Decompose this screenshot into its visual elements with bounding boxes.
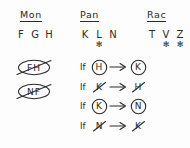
rule-consequent-token: K xyxy=(130,118,147,135)
letter-glyph: N xyxy=(96,122,103,131)
if-label: If xyxy=(80,62,86,72)
eliminated-token: FH xyxy=(16,59,52,76)
letter-glyph: K xyxy=(82,29,89,40)
letter-glyph: N xyxy=(109,29,116,40)
letter-glyph: G xyxy=(31,29,39,40)
column-header-pan-label: Pan xyxy=(80,9,99,22)
if-label: If xyxy=(80,121,86,131)
letter-glyph: K xyxy=(135,122,141,131)
letter-glyph: H xyxy=(96,63,103,72)
letter-cell: L ✻ xyxy=(92,29,106,48)
column-header-mon-label: Mon xyxy=(20,9,42,22)
eliminated-token-label: FH xyxy=(16,59,52,76)
rule-antecedent-token: K xyxy=(91,79,108,96)
if-label: If xyxy=(80,82,86,92)
letter-cell: K ✻ xyxy=(78,29,92,48)
letter-cell: V ✻ xyxy=(159,29,173,48)
letter-glyph: V xyxy=(163,29,170,40)
column-header-pan: Pan xyxy=(80,9,99,22)
letter-glyph: K xyxy=(96,102,102,111)
letter-glyph: L xyxy=(96,29,102,40)
letter-cell: G ✻ xyxy=(28,29,42,48)
letter-glyph: H xyxy=(135,83,142,92)
arrow-icon xyxy=(109,120,129,132)
letter-glyph: F xyxy=(18,29,24,40)
rule-row: If N K xyxy=(80,117,147,135)
letter-glyph: K xyxy=(135,63,141,72)
letter-cell: N ✻ xyxy=(106,29,120,48)
scratchwork-canvas: Mon Pan Rac F ✻ G ✻ H ✻ K ✻ L ✻ N ✻ xyxy=(0,0,190,148)
column-header-rac-label: Rac xyxy=(147,9,166,22)
eliminated-token-label: NF xyxy=(16,83,52,100)
star-icon: ✻ xyxy=(159,42,173,48)
rule-consequent-token: K xyxy=(130,59,147,76)
arrow-icon xyxy=(109,100,129,112)
rule-antecedent-token: K xyxy=(91,98,108,115)
rule-antecedent-token: N xyxy=(91,118,108,135)
eliminated-token: NF xyxy=(16,83,52,100)
column-header-rac: Rac xyxy=(147,9,166,22)
rule-consequent-token: H xyxy=(130,79,147,96)
star-icon: ✻ xyxy=(173,42,187,48)
letter-row-mon: F ✻ G ✻ H ✻ xyxy=(14,29,56,48)
letter-row-rac: T ✻ V ✻ Z ✻ xyxy=(145,29,187,48)
rule-consequent-token: N xyxy=(130,98,147,115)
rule-row: If K N xyxy=(80,97,147,115)
rule-antecedent-token: H xyxy=(91,59,108,76)
letter-cell: T ✻ xyxy=(145,29,159,48)
letter-cell: F ✻ xyxy=(14,29,28,48)
arrow-icon xyxy=(109,61,129,73)
letter-glyph: H xyxy=(45,29,53,40)
letter-cell: H ✻ xyxy=(42,29,56,48)
star-icon: ✻ xyxy=(92,42,106,48)
letter-glyph: T xyxy=(149,29,155,40)
letter-glyph: K xyxy=(96,83,102,92)
letter-cell: Z ✻ xyxy=(173,29,187,48)
arrow-icon xyxy=(109,81,129,93)
rule-row: If H K xyxy=(80,58,147,76)
letter-glyph: N xyxy=(135,102,142,111)
column-header-mon: Mon xyxy=(20,9,42,22)
letter-glyph: Z xyxy=(177,29,184,40)
if-label: If xyxy=(80,101,86,111)
letter-row-pan: K ✻ L ✻ N ✻ xyxy=(78,29,120,48)
rule-row: If K H xyxy=(80,78,147,96)
